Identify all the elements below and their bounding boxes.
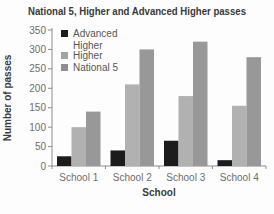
chart-title: National 5, Higher and Advanced Higher p… bbox=[28, 6, 246, 17]
bar-school-3-national-5 bbox=[193, 42, 208, 166]
x-axis-title: School bbox=[142, 187, 176, 198]
bar-school-1-higher bbox=[72, 127, 87, 166]
bar-school-2-advanced-higher bbox=[111, 150, 126, 166]
legend-swatch-advanced-higher bbox=[61, 30, 68, 37]
legend-swatch-higher bbox=[61, 52, 68, 59]
y-tick-label: 250 bbox=[29, 63, 46, 74]
y-tick-label: 0 bbox=[40, 161, 46, 172]
y-tick-label: 150 bbox=[29, 102, 46, 113]
x-category-label: School 4 bbox=[220, 172, 259, 183]
y-tick-label: 350 bbox=[29, 25, 46, 36]
legend-label: National 5 bbox=[73, 62, 118, 73]
x-category-label: School 2 bbox=[113, 172, 152, 183]
legend-label: Higher bbox=[73, 50, 103, 61]
bar-school-1-national-5 bbox=[86, 112, 101, 166]
legend-swatch-national-5 bbox=[61, 64, 68, 71]
bar-school-4-national-5 bbox=[247, 57, 262, 166]
y-tick-label: 100 bbox=[29, 122, 46, 133]
bar-school-2-national-5 bbox=[140, 49, 155, 166]
bar-school-4-advanced-higher bbox=[218, 160, 233, 166]
plot-area: 050100150200250300350School 1School 2Sch… bbox=[29, 25, 266, 184]
legend-label: Advanced bbox=[73, 28, 117, 39]
y-tick-label: 50 bbox=[35, 141, 47, 152]
bar-school-2-higher bbox=[125, 84, 140, 166]
bar-school-3-advanced-higher bbox=[164, 141, 179, 166]
chart-svg: National 5, Higher and Advanced Higher p… bbox=[0, 0, 274, 214]
bar-chart-figure: National 5, Higher and Advanced Higher p… bbox=[0, 0, 274, 214]
y-tick-label: 300 bbox=[29, 44, 46, 55]
y-axis-title: Number of passes bbox=[2, 54, 13, 141]
x-category-label: School 1 bbox=[59, 172, 98, 183]
bar-school-4-higher bbox=[232, 106, 247, 166]
bar-school-1-advanced-higher bbox=[57, 156, 72, 166]
x-category-label: School 3 bbox=[166, 172, 205, 183]
y-tick-label: 200 bbox=[29, 83, 46, 94]
bar-school-3-higher bbox=[179, 96, 194, 166]
